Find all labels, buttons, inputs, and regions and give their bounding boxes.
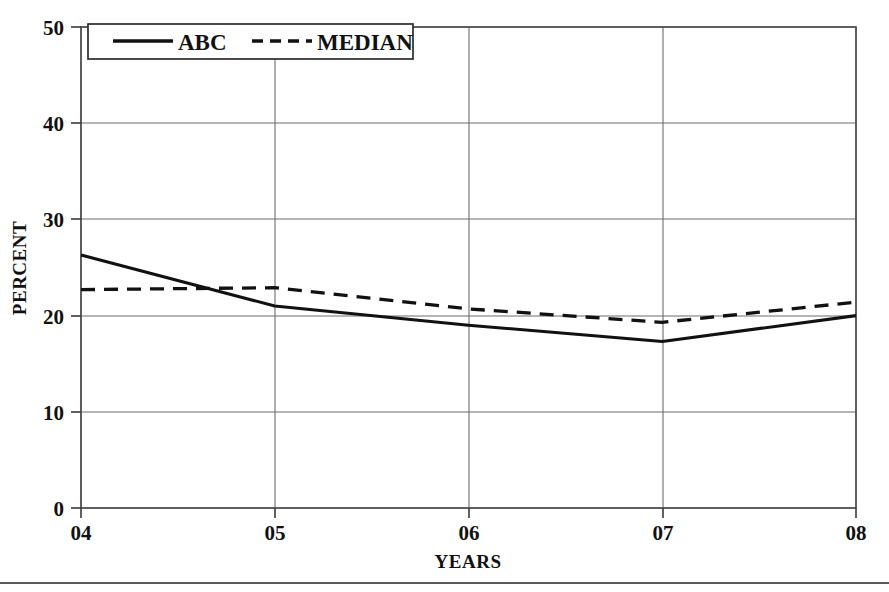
y-tick-label-40: 40 [43, 112, 64, 136]
y-tick-label-10: 10 [43, 401, 64, 425]
line-chart: 50 40 30 20 10 0 04 05 06 07 08 PERCENT … [0, 0, 889, 592]
x-tick-label-06: 06 [459, 521, 480, 545]
x-tick-label-04: 04 [71, 521, 93, 545]
x-tick-label-07: 07 [653, 521, 674, 545]
y-tick-label-50: 50 [43, 16, 64, 40]
chart-figure: 50 40 30 20 10 0 04 05 06 07 08 PERCENT … [0, 0, 889, 592]
legend-label-median: MEDIAN [317, 30, 413, 55]
x-tick-label-05: 05 [265, 521, 286, 545]
y-tick-marks [71, 27, 81, 508]
chart-legend: ABC MEDIAN [88, 24, 413, 59]
x-axis-title: YEARS [435, 551, 502, 572]
x-tick-marks [81, 508, 856, 518]
legend-label-abc: ABC [178, 30, 227, 55]
y-tick-label-30: 30 [43, 208, 64, 232]
y-tick-label-0: 0 [54, 497, 65, 521]
x-tick-label-08: 08 [846, 521, 867, 545]
y-axis-title: PERCENT [9, 221, 30, 315]
y-tick-label-20: 20 [43, 305, 64, 329]
